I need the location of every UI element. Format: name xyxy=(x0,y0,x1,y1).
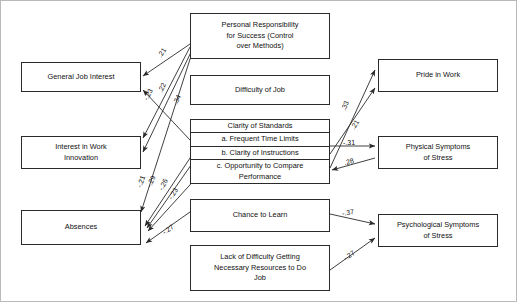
edge-e10 xyxy=(330,70,375,168)
node-label: Difficulty of Job xyxy=(191,85,329,95)
node-label: Chance to Learn xyxy=(191,210,329,220)
node-clarity-of-standards[interactable]: Clarity of Standards a. Frequent Time Li… xyxy=(190,119,330,184)
clarity-item-a: a. Frequent Time Limits xyxy=(191,132,329,145)
edge-label-e12: -.31 xyxy=(343,139,355,146)
node-absences[interactable]: Absences xyxy=(21,210,141,245)
node-label: Absences xyxy=(22,222,140,232)
path-diagram-figure: General Job Interest Interest in Work In… xyxy=(0,0,519,304)
node-label: Psychological Symptoms of Stress xyxy=(379,220,497,241)
edge-e5 xyxy=(141,53,192,212)
node-difficulty-of-job[interactable]: Difficulty of Job xyxy=(190,75,330,105)
clarity-item-b: b. Clarity of Instructions xyxy=(191,146,329,159)
node-label: General Job Interest xyxy=(22,72,140,82)
node-lack-of-difficulty[interactable]: Lack of Difficulty Getting Necessary Res… xyxy=(190,245,330,291)
node-label: Lack of Difficulty Getting Necessary Res… xyxy=(191,252,329,283)
edge-e4 xyxy=(143,50,192,152)
clarity-item-c: c. Opportunity to Compare Performance xyxy=(191,159,329,183)
node-label: Interest in Work Innovation xyxy=(22,142,140,163)
clarity-header: Clarity of Standards xyxy=(191,120,329,132)
node-label: Personal Responsibility for Success (Con… xyxy=(191,20,329,51)
node-chance-to-learn[interactable]: Chance to Learn xyxy=(190,199,330,232)
node-interest-in-work-innovation[interactable]: Interest in Work Innovation xyxy=(21,136,141,169)
node-label: Physical Symptoms of Stress xyxy=(379,142,497,163)
node-personal-responsibility[interactable]: Personal Responsibility for Success (Con… xyxy=(190,13,330,59)
node-pride-in-work[interactable]: Pride in Work xyxy=(378,59,498,92)
node-label: Pride in Work xyxy=(379,70,497,80)
node-general-job-interest[interactable]: General Job Interest xyxy=(21,62,141,92)
node-physical-symptoms[interactable]: Physical Symptoms of Stress xyxy=(378,136,498,169)
node-psychological-symptoms[interactable]: Psychological Symptoms of Stress xyxy=(378,214,498,247)
edge-e14 xyxy=(330,214,375,224)
